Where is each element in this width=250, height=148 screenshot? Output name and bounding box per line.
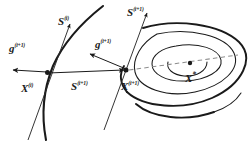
label-s-i: S(i) — [58, 16, 69, 27]
vector-gradient-right — [90, 54, 126, 69]
label-x-i-sup: (i) — [28, 82, 33, 88]
node-x-star — [188, 61, 192, 65]
label-x-i1: X(i+1) — [121, 81, 139, 92]
label-x-star: X* — [185, 71, 196, 84]
direction-line-s-i — [28, 24, 70, 140]
diagram-svg — [0, 0, 250, 148]
node-x-i — [45, 70, 50, 75]
label-x-star-sup: * — [192, 70, 196, 79]
vector-step-s-i1 — [48, 70, 124, 73]
label-s-i1-top: S(i+1) — [127, 7, 144, 18]
node-x-i1 — [124, 68, 129, 73]
label-s-i1-mid: S(i+1) — [71, 81, 88, 92]
label-g-i1-right-sup: (i+1) — [101, 38, 112, 44]
label-s-i1-mid-sup: (i+1) — [77, 80, 88, 86]
figure-canvas: S(i) S(i+1) g(i+1) g(i+1) X(i) S(i+1) X(… — [0, 0, 250, 148]
vector-gradient-left — [13, 70, 47, 72]
label-g-i1-right: g(i+1) — [95, 39, 111, 50]
label-g-i1-left: g(i+1) — [9, 43, 25, 54]
label-x-i: X(i) — [21, 83, 33, 94]
label-x-i1-sup: (i+1) — [128, 80, 139, 86]
label-s-i-sup: (i) — [64, 15, 69, 21]
label-s-i1-top-sup: (i+1) — [133, 6, 144, 12]
label-g-i1-left-sup: (i+1) — [15, 42, 26, 48]
contour-group — [121, 23, 246, 117]
